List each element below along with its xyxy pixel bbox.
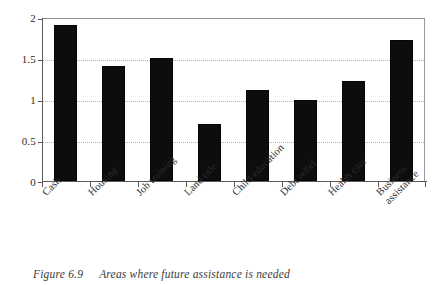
y-axis-labels: 0 0.5 1 1.5 2 xyxy=(0,18,36,182)
plot-area xyxy=(42,18,425,182)
bar-business-assistance[interactable] xyxy=(390,40,413,181)
y-tick-2 xyxy=(38,19,43,20)
gridline-1.5 xyxy=(43,60,424,61)
y-tick-label-3: 1.5 xyxy=(22,54,36,65)
y-tick-label-2: 1 xyxy=(30,95,36,106)
x-tick-8 xyxy=(425,182,426,187)
bar-housing[interactable] xyxy=(102,66,125,181)
y-tick-0.5 xyxy=(38,142,43,143)
y-tick-1 xyxy=(38,101,43,102)
y-tick-1.5 xyxy=(38,60,43,61)
bar-cash[interactable] xyxy=(54,25,77,181)
figure-container: 0 0.5 1 1.5 2 xyxy=(0,0,443,285)
gridline-0.5 xyxy=(43,142,424,143)
y-tick-label-1: 0.5 xyxy=(22,136,36,147)
figure-caption-number: Figure 6.9 xyxy=(33,268,83,280)
y-tick-label-0: 0 xyxy=(30,177,36,188)
gridline-1 xyxy=(43,101,424,102)
figure-caption: Figure 6.9Areas where future assistance … xyxy=(33,268,290,281)
y-tick-label-4: 2 xyxy=(30,13,36,24)
figure-caption-text: Areas where future assistance is needed xyxy=(99,268,290,280)
